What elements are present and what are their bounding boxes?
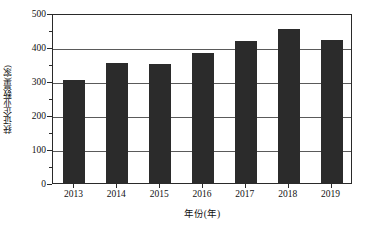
x-axis-tick-label: 2015 [150, 189, 169, 199]
bar-chart-figure: 获证企业数量(家) 0100200300400500 2013201420152… [0, 0, 366, 232]
y-axis-title: 获证企业数量(家) [0, 14, 14, 184]
y-axis-title-text: 获证企业数量(家) [3, 65, 12, 134]
x-axis-tick-mark [116, 184, 117, 188]
y-axis-minor-tick-mark [49, 167, 52, 168]
x-axis-tick-mark [331, 184, 332, 188]
y-axis-tick-label: 0 [41, 179, 46, 189]
bars-group [53, 15, 351, 183]
y-axis-tick-label: 200 [32, 111, 46, 121]
y-axis-tick-mark [47, 14, 52, 15]
y-axis-minor-tick-mark [49, 99, 52, 100]
y-axis-minor-tick-mark [49, 31, 52, 32]
y-axis-tick-label: 400 [32, 43, 46, 53]
x-axis-tick-mark [202, 184, 203, 188]
x-axis-tick-mark [245, 184, 246, 188]
plot-area [52, 14, 352, 184]
y-axis-tick-mark [47, 116, 52, 117]
x-axis-tick-label: 2019 [321, 189, 340, 199]
y-axis-minor-tick-mark [49, 65, 52, 66]
x-axis-tick-label: 2014 [107, 189, 126, 199]
y-axis-minor-tick-mark [49, 133, 52, 134]
x-axis-tick-label: 2018 [278, 189, 297, 199]
bar [278, 29, 300, 183]
y-axis-tick-mark [47, 150, 52, 151]
x-axis-tick-label: 2016 [193, 189, 212, 199]
bar [149, 64, 171, 183]
x-axis-tick-mark [73, 184, 74, 188]
x-axis-title: 年份(年) [52, 206, 352, 220]
y-axis-tick-labels: 0100200300400500 [14, 0, 50, 232]
x-axis-tick-mark [159, 184, 160, 188]
y-axis-tick-label: 100 [32, 145, 46, 155]
bar [192, 53, 214, 183]
y-axis-tick-label: 500 [32, 9, 46, 19]
bar [235, 41, 257, 183]
bar [106, 63, 128, 183]
bar [63, 80, 85, 183]
x-axis-tick-mark [288, 184, 289, 188]
x-axis-tick-label: 2013 [64, 189, 83, 199]
y-axis-tick-label: 300 [32, 77, 46, 87]
y-axis-tick-mark [47, 82, 52, 83]
x-axis-tick-label: 2017 [235, 189, 254, 199]
y-axis-tick-mark [47, 48, 52, 49]
bar [321, 40, 343, 183]
x-axis-tick-labels: 2013201420152016201720182019 [52, 189, 352, 203]
